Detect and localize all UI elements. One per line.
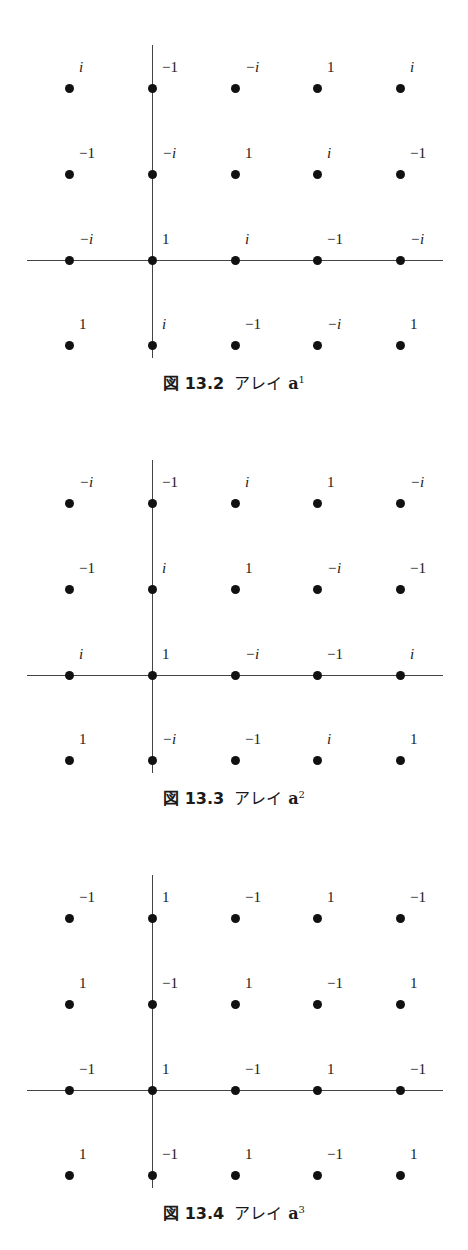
lattice-point [313,341,322,350]
point-value-label: 1 [162,647,170,662]
lattice-point [313,756,322,765]
point-value-label: 1 [162,232,170,247]
lattice-point [396,914,405,923]
point-value-label: −1 [327,647,343,662]
lattice-point [65,1086,74,1095]
point-value-label: 1 [245,146,253,161]
lattice-point [148,170,157,179]
point-value-label: −i [410,232,424,247]
lattice-point [313,1086,322,1095]
point-value-label: 1 [410,976,418,991]
figure-title: アレイ [234,789,282,808]
lattice-point [313,256,322,265]
lattice-point [231,1171,240,1180]
lattice-point [148,914,157,923]
array-exponent: 1 [299,374,305,385]
lattice-point [148,499,157,508]
lattice-point [231,585,240,594]
point-value-label: 1 [327,60,335,75]
lattice-point [231,256,240,265]
point-value-label: i [245,232,249,247]
point-value-label: 1 [79,732,87,747]
lattice-point [231,1086,240,1095]
point-value-label: −i [410,475,424,490]
lattice-point [313,170,322,179]
point-value-label: −i [327,317,341,332]
lattice-point [313,585,322,594]
figure-caption: 図 13.4アレイa3 [0,1200,468,1224]
point-value-label: −i [79,232,93,247]
lattice-point [396,1171,405,1180]
point-value-label: −1 [79,561,95,576]
point-value-label: 1 [410,317,418,332]
point-value-label: i [410,647,414,662]
lattice-point [231,671,240,680]
point-value-label: i [79,60,83,75]
lattice-point [148,1000,157,1009]
lattice-point [65,170,74,179]
figure-3: −11−11−11−11−11−11−11−11−11−11図 13.4アレイa… [0,830,468,1240]
point-value-label: 1 [245,1147,253,1162]
point-value-label: −1 [245,317,261,332]
point-value-label: −1 [410,561,426,576]
point-value-label: i [245,475,249,490]
point-value-label: −1 [327,976,343,991]
point-value-label: −1 [162,475,178,490]
figure-title: アレイ [234,374,282,393]
point-value-label: −1 [245,1062,261,1077]
point-value-label: −1 [162,1147,178,1162]
lattice-point [313,84,322,93]
point-value-label: 1 [79,976,87,991]
lattice-point [65,1000,74,1009]
figure-1: i−1−i1i−1−i1i−1−i1i−1−i1i−1−i1図 13.2アレイa… [0,0,468,410]
point-value-label: −1 [79,146,95,161]
point-value-label: i [327,732,331,747]
point-value-label: −1 [79,890,95,905]
point-value-label: 1 [327,1062,335,1077]
figure-title: アレイ [234,1204,282,1223]
lattice-point [396,341,405,350]
figure-2: −i−1i1−i−1i1−i−1i1−i−1i1−i−1i1図 13.3アレイa… [0,415,468,825]
lattice-point [313,671,322,680]
lattice-point [396,499,405,508]
point-value-label: −i [245,60,259,75]
point-value-label: −1 [410,146,426,161]
point-value-label: 1 [79,317,87,332]
lattice-point [148,585,157,594]
lattice-point [148,341,157,350]
lattice-point [396,170,405,179]
lattice-point [231,499,240,508]
figure-number: 図 13.2 [163,374,224,393]
lattice-point [231,756,240,765]
array-variable: a3 [288,1204,305,1223]
point-value-label: −1 [245,890,261,905]
lattice-point [148,1171,157,1180]
point-value-label: i [162,317,166,332]
lattice-point [65,341,74,350]
lattice-point [231,84,240,93]
lattice-point [396,585,405,594]
lattice-point [65,1171,74,1180]
figure-number: 図 13.3 [163,789,224,808]
point-value-label: i [410,60,414,75]
lattice-point [65,499,74,508]
point-value-label: i [162,561,166,576]
point-value-label: −1 [79,1062,95,1077]
lattice-point [396,84,405,93]
figure-number: 図 13.4 [163,1204,224,1223]
lattice-point [65,585,74,594]
lattice-point [231,170,240,179]
point-value-label: −1 [327,1147,343,1162]
point-value-label: 1 [327,890,335,905]
point-value-label: −1 [327,232,343,247]
point-value-label: −i [162,146,176,161]
lattice-point [148,756,157,765]
figure-caption: 図 13.3アレイa2 [0,785,468,809]
lattice-point [148,1086,157,1095]
point-value-label: 1 [79,1147,87,1162]
point-value-label: −1 [410,1062,426,1077]
lattice-point [148,671,157,680]
lattice-point [65,256,74,265]
lattice-point [148,256,157,265]
lattice-point [231,341,240,350]
